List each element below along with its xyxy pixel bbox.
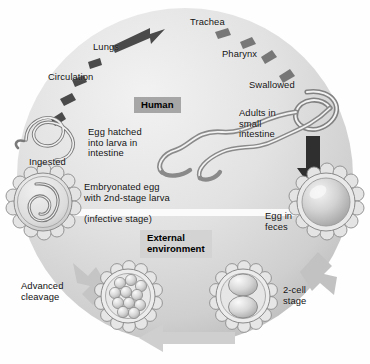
label-advanced-cleavage: Advanced cleavage	[21, 281, 64, 302]
label-adults-small-intestine: Adults in small intestine	[239, 108, 276, 140]
life-cycle-diagram: Trachea Lungs Circulation Pharynx Swallo…	[0, 0, 370, 364]
label-ingested: Ingested	[29, 157, 66, 168]
label-pharynx: Pharynx	[222, 49, 257, 60]
label-two-cell-stage: 2-cell stage	[283, 285, 306, 306]
diagram-canvas	[0, 0, 370, 364]
label-circulation: Circulation	[48, 72, 93, 83]
label-infective-stage: (infective stage)	[84, 214, 152, 225]
label-lungs: Lungs	[93, 42, 119, 53]
label-trachea: Trachea	[190, 17, 225, 28]
label-embryonated-egg: Embryonated egg with 2nd-stage larva	[84, 182, 170, 203]
box-label-external-environment: External environment	[140, 230, 212, 258]
label-egg-hatched: Egg hatched into larva in intestine	[88, 127, 142, 159]
label-egg-in-feces: Egg in feces	[265, 211, 292, 232]
box-label-human: Human	[134, 97, 181, 113]
label-swallowed: Swallowed	[249, 80, 295, 91]
